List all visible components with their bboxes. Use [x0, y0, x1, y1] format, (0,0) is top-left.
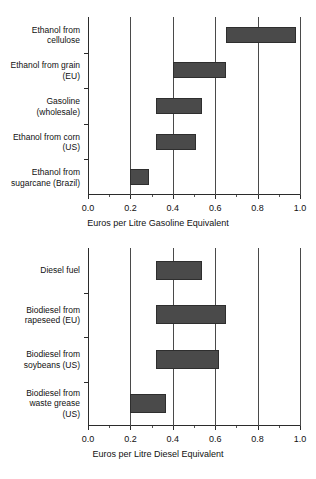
range-bar [156, 350, 220, 369]
x-tick-label: 0.2 [124, 203, 137, 213]
category-label: Biodiesel from rapeseed (EU) [0, 304, 80, 325]
x-tick-label: 1.0 [294, 203, 307, 213]
range-bar [173, 62, 226, 78]
x-tick-label: 0.0 [82, 434, 95, 444]
x-tick-label: 0.4 [167, 434, 180, 444]
x-tick-major [300, 195, 301, 199]
category-label: Gasoline (wholesale) [0, 96, 80, 117]
range-bar [156, 261, 203, 280]
gridline-right-frame [300, 248, 301, 426]
x-tick-major [258, 195, 259, 199]
diesel-equivalent-chart: 0.00.20.40.60.81.0Diesel fuelBiodiesel f… [0, 236, 316, 479]
gasoline-equivalent-chart: 0.00.20.40.60.81.0Ethanol from cellulose… [0, 0, 316, 236]
x-tick-label: 0.8 [251, 203, 264, 213]
x-tick-major [130, 195, 131, 199]
y-axis-line [88, 17, 89, 195]
x-tick-label: 0.8 [251, 434, 264, 444]
y-tick [84, 159, 88, 160]
x-tick-major [215, 426, 216, 430]
range-bar [156, 305, 226, 324]
x-tick-major [130, 426, 131, 430]
x-tick-minor [152, 426, 153, 428]
x-tick-minor [152, 195, 153, 197]
x-tick-label: 0.6 [209, 434, 222, 444]
x-tick-major [88, 195, 89, 199]
x-tick-label: 0.0 [82, 203, 95, 213]
range-bar [226, 27, 296, 43]
gridline [215, 17, 216, 195]
x-tick-minor [194, 426, 195, 428]
x-tick-minor [109, 195, 110, 197]
y-tick [84, 53, 88, 54]
category-label: Biodiesel from waste grease (US) [0, 388, 80, 420]
range-bar [130, 169, 149, 185]
range-bar [130, 394, 166, 413]
gridline [258, 17, 259, 195]
x-tick-label: 0.4 [167, 203, 180, 213]
x-tick-label: 0.2 [124, 434, 137, 444]
x-tick-minor [236, 195, 237, 197]
range-bar [156, 134, 196, 150]
x-tick-label: 0.6 [209, 203, 222, 213]
category-label: Diesel fuel [0, 265, 80, 276]
y-tick [84, 88, 88, 89]
chart-page: 0.00.20.40.60.81.0Ethanol from cellulose… [0, 0, 316, 479]
range-bar [156, 98, 203, 114]
gridline [215, 248, 216, 426]
plot-area-bottom: 0.00.20.40.60.81.0Diesel fuelBiodiesel f… [88, 248, 300, 426]
x-tick-major [215, 195, 216, 199]
x-tick-label: 1.0 [294, 434, 307, 444]
plot-area-top: 0.00.20.40.60.81.0Ethanol from cellulose… [88, 17, 300, 195]
x-axis-title-bottom: Euros per Litre Diesel Equivalent [0, 449, 316, 459]
category-label: Ethanol from corn (US) [0, 131, 80, 152]
x-tick-minor [279, 195, 280, 197]
y-tick [84, 124, 88, 125]
gridline-right-frame [300, 17, 301, 195]
x-tick-major [88, 426, 89, 430]
y-tick [84, 293, 88, 294]
x-tick-minor [194, 195, 195, 197]
x-tick-minor [236, 426, 237, 428]
x-tick-minor [109, 426, 110, 428]
y-axis-line [88, 248, 89, 426]
x-axis-title-top: Euros per Litre Gasoline Equivalent [0, 218, 316, 228]
category-label: Biodiesel from soybeans (US) [0, 349, 80, 370]
y-tick [84, 382, 88, 383]
category-label: Ethanol from sugarcane (Brazil) [0, 167, 80, 188]
x-tick-minor [279, 426, 280, 428]
category-label: Ethanol from grain (EU) [0, 60, 80, 81]
x-tick-major [173, 426, 174, 430]
x-tick-major [173, 195, 174, 199]
x-tick-major [258, 426, 259, 430]
y-tick [84, 337, 88, 338]
gridline [258, 248, 259, 426]
x-tick-major [300, 426, 301, 430]
category-label: Ethanol from cellulose [0, 24, 80, 45]
